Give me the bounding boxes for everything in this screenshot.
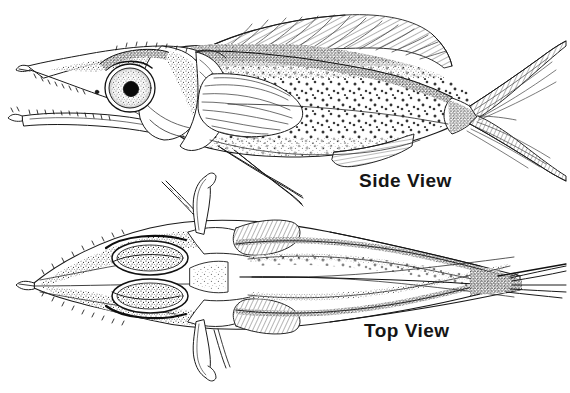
pupil xyxy=(123,81,138,96)
top-view-figure xyxy=(16,173,566,381)
head xyxy=(8,42,228,151)
fish-plate-svg xyxy=(0,0,570,393)
side-view-label: Side View xyxy=(359,171,452,190)
top-view-label: Top View xyxy=(364,321,450,340)
upper-jaw-teeth xyxy=(34,74,85,94)
illustration-plate xyxy=(0,0,570,393)
side-view-figure xyxy=(8,15,566,240)
caudal-fin xyxy=(444,41,566,181)
